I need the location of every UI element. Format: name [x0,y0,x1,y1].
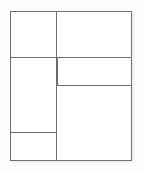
layout-wireframe-canvas [0,0,144,171]
layout-region-left-middle[interactable] [10,57,57,133]
layout-region-right-bottom[interactable] [56,85,132,161]
layout-region-right-top[interactable] [56,11,132,58]
layout-region-right-middle[interactable] [57,57,132,86]
layout-region-left-bottom[interactable] [10,132,57,161]
layout-region-left-top[interactable] [10,11,57,58]
